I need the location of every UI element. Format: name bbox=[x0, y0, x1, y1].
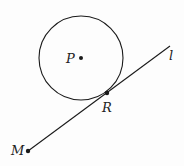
point-m bbox=[26, 149, 30, 153]
diagram-svg: P R M l bbox=[0, 0, 184, 166]
tangent-line-l bbox=[28, 46, 170, 151]
geometry-diagram: P R M l bbox=[0, 0, 184, 166]
label-l: l bbox=[169, 48, 173, 63]
label-r: R bbox=[101, 100, 112, 115]
point-r bbox=[105, 91, 109, 95]
point-p bbox=[79, 56, 83, 60]
label-m: M bbox=[10, 143, 25, 158]
label-p: P bbox=[65, 51, 75, 66]
